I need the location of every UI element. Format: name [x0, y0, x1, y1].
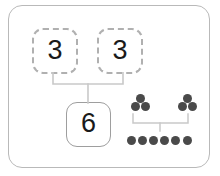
dot-whole-6 — [183, 136, 192, 145]
number-box-part-left-value: 3 — [47, 37, 62, 64]
number-box-whole-value: 6 — [81, 110, 96, 137]
dot-whole-5 — [171, 136, 180, 145]
number-box-part-left[interactable]: 3 — [32, 28, 78, 74]
dot-part-right-2 — [178, 102, 187, 111]
number-box-whole[interactable]: 6 — [66, 102, 111, 147]
number-bond-worksheet-canvas: 3 3 6 — [0, 0, 220, 176]
dot-whole-3 — [149, 136, 158, 145]
dot-whole-1 — [127, 136, 136, 145]
number-box-part-right-value: 3 — [112, 37, 127, 64]
dot-part-left-3 — [141, 102, 150, 111]
dot-part-left-2 — [131, 102, 140, 111]
number-box-part-right[interactable]: 3 — [97, 28, 143, 74]
dot-part-right-3 — [188, 102, 197, 111]
dot-whole-4 — [160, 136, 169, 145]
dot-model-group — [126, 94, 206, 146]
dot-whole-2 — [138, 136, 147, 145]
